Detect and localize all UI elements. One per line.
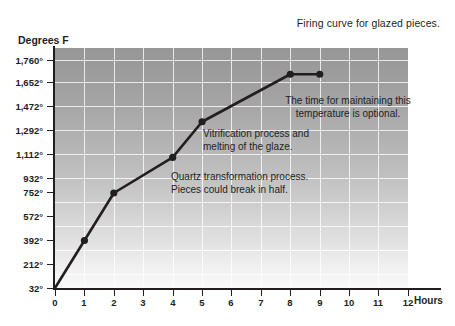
x-axis-tick-label: 11 <box>366 297 390 308</box>
y-axis-tick-label: 1,652° <box>15 77 43 88</box>
x-axis-tick <box>55 290 56 296</box>
y-axis-tick-label: 752° <box>23 187 43 198</box>
y-axis-label: Degrees F <box>18 34 69 46</box>
y-axis-tick <box>47 154 53 155</box>
y-axis-tick <box>47 178 53 179</box>
y-axis-tick <box>47 130 53 131</box>
x-axis-tick-label: 3 <box>131 297 155 308</box>
y-axis-tick <box>47 106 53 107</box>
x-axis-tick <box>202 290 203 296</box>
x-axis-tick <box>349 290 350 296</box>
annotation-vitrification: Vitrification process and melting of the… <box>203 128 363 153</box>
gridline-vertical <box>290 48 291 288</box>
y-axis-tick <box>47 60 53 61</box>
y-axis-tick <box>47 240 53 241</box>
x-axis-tick <box>261 290 262 296</box>
chart-title: Firing curve for glazed pieces. <box>200 17 440 29</box>
y-axis-tick-label: 1,292° <box>15 125 43 136</box>
gridline-vertical <box>378 48 379 288</box>
x-axis-tick <box>231 290 232 296</box>
gridline-vertical <box>320 48 321 288</box>
annotation-quartz-transformation: Quartz transformation process. Pieces co… <box>171 171 341 196</box>
plot-area <box>55 48 408 288</box>
x-axis-tick <box>114 290 115 296</box>
x-axis-tick <box>173 290 174 296</box>
gridline-vertical <box>173 48 174 288</box>
annotation-hold-time: The time for maintaining this temperatur… <box>272 95 424 120</box>
x-axis-tick-label: 5 <box>190 297 214 308</box>
gridline-vertical <box>202 48 203 288</box>
y-axis-line <box>53 46 55 289</box>
y-axis-tick-label: 572° <box>23 211 43 222</box>
y-axis-tick-label: 32° <box>29 283 43 294</box>
y-axis-tick <box>47 216 53 217</box>
gridline-vertical <box>114 48 115 288</box>
x-axis-tick-label: 0 <box>43 297 67 308</box>
x-axis-tick-label: 1 <box>72 297 96 308</box>
gridline-vertical <box>143 48 144 288</box>
x-axis-tick-label: 2 <box>102 297 126 308</box>
x-axis-label: Hours <box>414 295 443 306</box>
y-axis-tick <box>47 82 53 83</box>
y-axis-tick-label: 1,112° <box>16 149 43 160</box>
y-axis-tick-label: 392° <box>23 235 43 246</box>
x-axis-tick-label: 10 <box>337 297 361 308</box>
x-axis-tick-label: 8 <box>278 297 302 308</box>
y-axis-tick-label: 932° <box>23 173 43 184</box>
x-axis-tick-label: 9 <box>308 297 332 308</box>
y-axis-tick-label: 212° <box>23 259 43 270</box>
x-axis-tick <box>320 290 321 296</box>
x-axis-tick <box>408 290 409 296</box>
y-axis-tick <box>47 264 53 265</box>
x-axis-tick <box>290 290 291 296</box>
gridline-vertical <box>261 48 262 288</box>
gridline-vertical <box>231 48 232 288</box>
x-axis-line <box>53 288 441 290</box>
x-axis-tick <box>84 290 85 296</box>
x-axis-tick-label: 6 <box>219 297 243 308</box>
y-axis-tick-label: 1,760° <box>15 55 43 66</box>
gridline-vertical <box>349 48 350 288</box>
x-axis-tick <box>143 290 144 296</box>
x-axis-tick <box>378 290 379 296</box>
y-axis-tick <box>47 288 53 289</box>
gridline-vertical <box>84 48 85 288</box>
x-axis-tick-label: 4 <box>161 297 185 308</box>
x-axis-tick-label: 7 <box>249 297 273 308</box>
y-axis-tick-label: 1,472° <box>15 101 43 112</box>
firing-curve-chart: Firing curve for glazed pieces. Degrees … <box>0 0 455 326</box>
y-axis-tick <box>47 192 53 193</box>
